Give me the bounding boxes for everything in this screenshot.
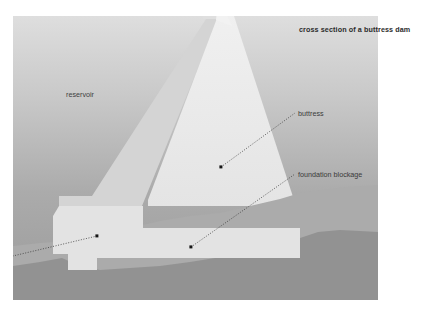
- foundation-blockage-slab: [143, 228, 300, 258]
- figure-title: cross section of a buttress dam: [299, 26, 410, 33]
- foundation-marker-dot: [189, 245, 192, 248]
- reservoir-label: reservoir: [66, 91, 94, 98]
- base-marker-dot: [95, 234, 98, 237]
- buttress-label: buttress: [298, 110, 324, 117]
- foundation-blockage-label: foundation blockage: [298, 171, 362, 178]
- figure-page: cross section of a buttress dam reservoi…: [0, 0, 435, 314]
- buttress-marker-dot: [219, 165, 222, 168]
- buttress-dam-cross-section-illustration: [0, 0, 435, 314]
